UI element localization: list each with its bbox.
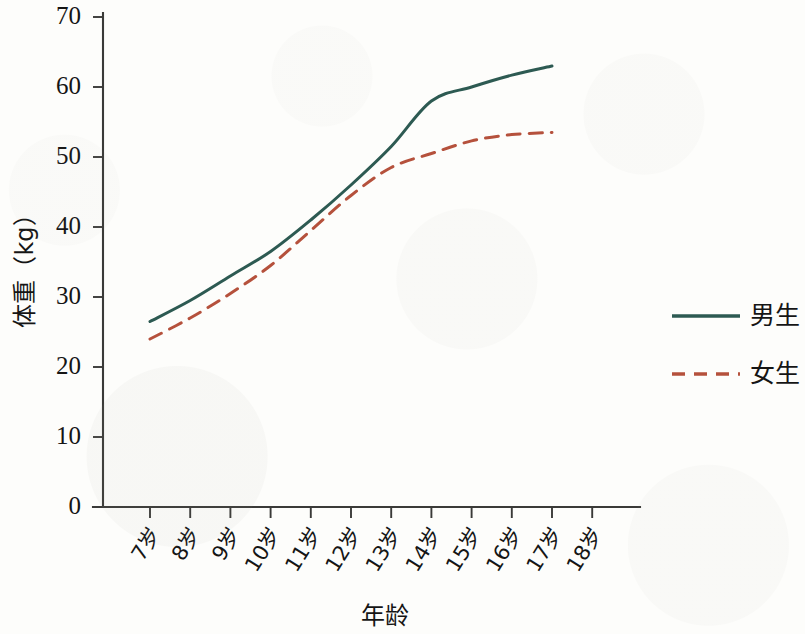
series-lines [150, 66, 552, 339]
x-axis: 7岁8岁9岁10岁11岁12岁13岁14岁15岁16岁17岁18岁 [93, 507, 640, 576]
weight-by-age-line-chart: 010203040506070 7岁8岁9岁10岁11岁12岁13岁14岁15岁… [0, 0, 805, 634]
y-tick-label: 70 [56, 2, 81, 29]
y-axis: 010203040506070 [56, 2, 103, 519]
y-tick-label: 10 [56, 422, 81, 449]
y-axis-title-text: 体重（kg） [11, 202, 39, 327]
x-tick-label: 12岁 [321, 523, 367, 576]
y-tick-label: 40 [56, 212, 81, 239]
x-tick-label: 15岁 [441, 523, 487, 576]
x-tick-label: 13岁 [361, 523, 407, 576]
x-axis-title-text: 年龄 [361, 602, 409, 630]
chart-canvas: 010203040506070 7岁8岁9岁10岁11岁12岁13岁14岁15岁… [0, 0, 805, 634]
y-tick-label: 0 [69, 492, 82, 519]
y-tick-label: 50 [56, 142, 81, 169]
x-tick-label: 17岁 [522, 523, 568, 576]
legend-label-female: 女生 [750, 359, 800, 388]
x-tick-label: 8岁 [167, 523, 206, 565]
x-tick-label: 7岁 [127, 523, 166, 565]
y-axis-title: 体重（kg） [11, 202, 39, 327]
y-tick-label: 30 [56, 282, 81, 309]
x-tick-label: 18岁 [562, 523, 608, 576]
x-tick-label: 10岁 [240, 523, 286, 576]
x-tick-label: 14岁 [401, 523, 447, 576]
legend-label-male: 男生 [750, 301, 800, 330]
x-tick-label: 9岁 [207, 523, 246, 565]
y-tick-label: 20 [56, 352, 81, 379]
x-tick-label: 11岁 [280, 523, 326, 576]
x-tick-label: 16岁 [481, 523, 527, 576]
y-tick-label: 60 [56, 72, 81, 99]
legend: 男生女生 [672, 301, 800, 388]
series-line-female [150, 133, 552, 340]
